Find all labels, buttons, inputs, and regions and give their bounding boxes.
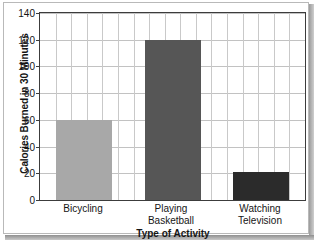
x-axis-title: Type of Activity [39,228,307,239]
y-axis-tick-mark [36,93,40,94]
page-shadow-right [309,4,314,238]
x-axis-category-label-line: Playing [127,203,215,215]
y-axis-tick-label: 60 [24,114,35,125]
x-axis-category-label-line: Basketball [127,215,215,227]
y-axis-tick-label: 20 [24,168,35,179]
bar [56,120,112,200]
plot-area: 020406080100120140 [39,12,306,201]
y-axis-tick-mark [36,40,40,41]
page-margin-bottom [0,241,320,251]
x-axis-category-label: PlayingBasketball [127,203,215,226]
x-axis-category-label-line: Watching [216,203,304,215]
x-axis-category-label: WatchingTelevision [216,203,304,226]
y-axis-tick-label: 80 [24,88,35,99]
y-axis-tick-mark [36,13,40,14]
y-axis-tick-mark [36,147,40,148]
y-axis-tick-label: 0 [29,195,35,206]
y-axis-tick-mark [36,66,40,67]
y-axis-tick-mark [36,200,40,201]
bar [145,40,201,200]
y-axis-tick-label: 120 [18,34,35,45]
bars-group [40,13,305,200]
y-axis-tick-label: 100 [18,61,35,72]
y-axis-tick-label: 140 [18,8,35,19]
x-axis-category-label: Bicycling [39,203,127,215]
bar [233,172,289,200]
chart-figure: Calories Burned in 30 Minutes 0204060801… [0,0,320,251]
x-axis-category-label-line: Bicycling [39,203,127,215]
y-axis-tick-mark [36,120,40,121]
y-axis-tick-label: 40 [24,141,35,152]
x-axis-category-label-line: Television [216,215,304,227]
y-axis-tick-mark [36,173,40,174]
x-axis-category-labels: BicyclingPlayingBasketballWatchingTelevi… [39,203,306,229]
